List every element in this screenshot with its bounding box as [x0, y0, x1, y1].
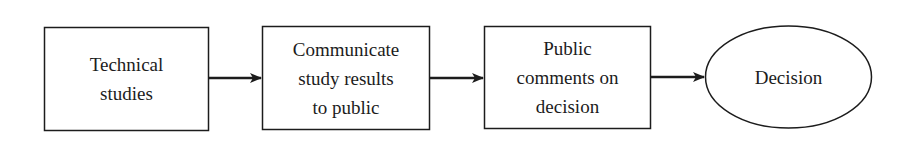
node-label-communicate-results: Communicate study results to public	[262, 26, 430, 130]
node-label-technical-studies: Technical studies	[44, 27, 209, 131]
node-label-line: Decision	[755, 63, 823, 92]
node-label-line: Public	[543, 34, 592, 63]
node-label-line: decision	[536, 92, 599, 121]
node-label-line: Technical	[90, 50, 164, 79]
node-label-decision: Decision	[705, 26, 872, 128]
node-label-line: to public	[312, 93, 379, 122]
node-label-public-comments: Public comments on decision	[484, 26, 651, 129]
node-label-line: comments on	[517, 63, 619, 92]
node-label-line: Communicate	[293, 35, 400, 64]
node-label-line: studies	[100, 79, 153, 108]
node-label-line: study results	[298, 64, 394, 93]
